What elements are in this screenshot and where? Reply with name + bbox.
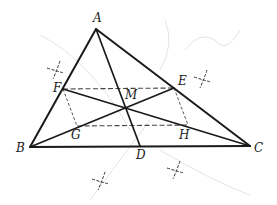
point-label-m: M bbox=[124, 88, 138, 102]
point-label-f: F bbox=[52, 81, 62, 95]
median-be bbox=[30, 88, 174, 147]
diagram-canvas: ABCDEFGHM bbox=[0, 0, 277, 205]
point-label-g: G bbox=[71, 128, 81, 142]
background-ghost-strokes bbox=[40, 20, 250, 200]
point-label-c: C bbox=[254, 141, 263, 155]
point-label-e: E bbox=[177, 74, 187, 88]
dashed-segment-fg bbox=[63, 89, 77, 126]
point-label-b: B bbox=[15, 141, 25, 155]
median-cf bbox=[63, 89, 250, 146]
triangle-median-diagram: ABCDEFGHM bbox=[0, 0, 277, 205]
point-label-a: A bbox=[92, 11, 102, 25]
point-label-d: D bbox=[135, 148, 146, 162]
construction-mark-icon bbox=[194, 70, 211, 88]
side-ab bbox=[30, 29, 96, 147]
construction-mark-icon bbox=[92, 172, 109, 190]
construction-mark-icon bbox=[47, 61, 64, 79]
construction-mark-icon bbox=[167, 161, 184, 179]
point-label-h: H bbox=[178, 128, 190, 142]
